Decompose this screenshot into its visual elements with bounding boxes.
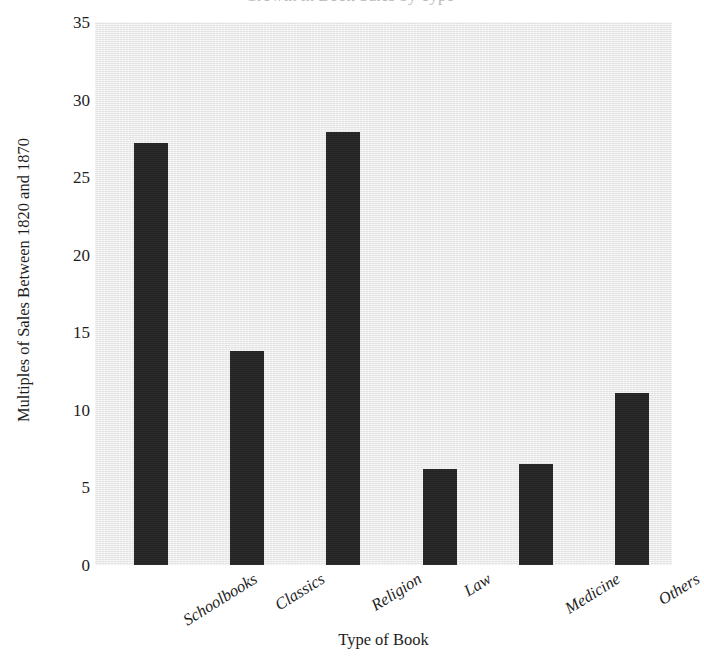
bar-law [423,469,457,565]
x-axis-tick-labels: SchoolbooksClassicsReligionLawMedicineOt… [95,565,672,627]
x-axis-tick-label: Schoolbooks [180,569,261,630]
bar-schoolbooks [134,143,168,565]
chart-title: Growth in Book Sales by Type [0,0,699,6]
y-axis-title: Multiples of Sales Between 1820 and 1870 [14,70,34,490]
y-axis-tick-label: 10 [46,401,90,418]
y-axis-tick-label: 25 [46,169,90,186]
plot-area [95,22,672,565]
y-axis-tick-label: 15 [46,324,90,341]
x-axis-title: Type of Book [95,630,672,650]
bar-others [615,393,649,565]
x-axis-tick-label: Classics [271,569,328,615]
y-axis-tick-label: 35 [46,14,90,31]
x-axis-tick-label: Medicine [561,569,624,618]
y-axis-tick-label: 20 [46,246,90,263]
bar-medicine [519,464,553,565]
y-axis-tick-label: 0 [46,557,90,574]
x-axis-tick-label: Law [460,569,495,601]
x-axis-tick-label: Religion [367,569,425,616]
y-axis-tick-label: 5 [46,479,90,496]
x-axis-tick-label: Others [655,569,704,610]
y-axis-tick-labels: 05101520253035 [46,22,90,565]
bar-religion [326,132,360,565]
bar-classics [230,351,264,565]
y-axis-tick-label: 30 [46,91,90,108]
